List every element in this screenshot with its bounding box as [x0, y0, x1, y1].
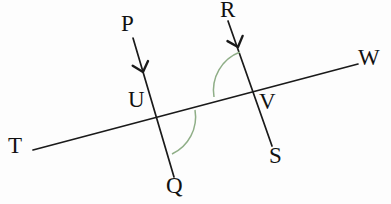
- point-label-u: U: [128, 88, 145, 111]
- angle-arc-u: [172, 110, 196, 154]
- angle-arcs-group: [172, 52, 240, 154]
- point-label-r: R: [220, 0, 235, 21]
- point-label-q: Q: [166, 174, 183, 197]
- point-label-v: V: [259, 90, 276, 113]
- point-label-p: P: [121, 12, 134, 35]
- diagram-canvas: P R W U V T S Q: [0, 0, 391, 204]
- geometry-figure: [0, 0, 391, 204]
- lines-group: [33, 21, 358, 177]
- point-label-s: S: [269, 144, 282, 167]
- arrow-markers-group: [133, 36, 246, 74]
- line-tw: [33, 64, 358, 150]
- line-rs: [228, 21, 272, 146]
- point-label-t: T: [8, 134, 22, 157]
- angle-arc-v: [213, 52, 240, 97]
- point-label-w: W: [358, 46, 380, 69]
